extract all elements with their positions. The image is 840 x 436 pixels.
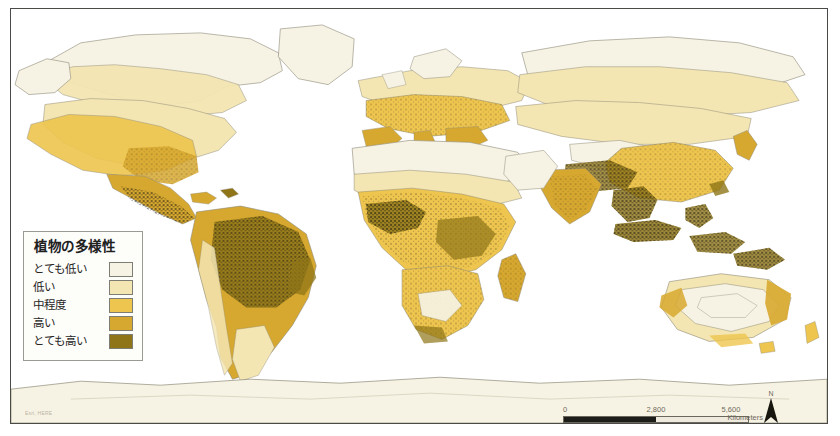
legend-swatch-low	[109, 280, 133, 295]
map-page: 植物の多様性 とても低い 低い 中程度 高い とても高い	[0, 0, 840, 436]
map-frame: 植物の多様性 とても低い 低い 中程度 高い とても高い	[10, 8, 828, 424]
legend-item-label: 低い	[33, 282, 55, 294]
legend-item-label: 中程度	[33, 300, 66, 312]
legend-swatch-medium	[109, 298, 133, 313]
legend-item-low[interactable]: 低い	[33, 279, 133, 296]
scale-segment-filled	[564, 417, 656, 422]
map-credit: Esri, HERE	[25, 410, 52, 416]
scale-bar: 0 2,800 5,600 Kilometers	[563, 405, 749, 423]
legend-item-label: とても高い	[33, 336, 87, 348]
legend-swatch-high	[109, 316, 133, 331]
legend-item-label: とても低い	[33, 264, 87, 276]
scale-bar-unit: Kilometers	[728, 413, 763, 422]
legend-item-high[interactable]: 高い	[33, 315, 133, 332]
scale-tick-mid: 2,800	[647, 405, 666, 414]
legend-item-very-low[interactable]: とても低い	[33, 261, 133, 278]
legend-item-label: 高い	[33, 318, 55, 330]
scale-tick-0: 0	[563, 405, 567, 414]
legend-swatch-very-high	[109, 334, 133, 349]
legend-swatch-very-low	[109, 262, 133, 277]
north-arrow-icon	[763, 398, 779, 424]
legend-panel[interactable]: 植物の多様性 とても低い 低い 中程度 高い とても高い	[23, 231, 143, 361]
north-arrow: N	[759, 390, 783, 424]
legend-item-medium[interactable]: 中程度	[33, 297, 133, 314]
scale-bar-ticks: 0 2,800 5,600	[563, 405, 749, 416]
world-map-canvas[interactable]	[11, 9, 827, 423]
legend-title: 植物の多様性	[34, 240, 133, 255]
scale-bar-segments	[563, 416, 749, 423]
legend-item-very-high[interactable]: とても高い	[33, 333, 133, 350]
north-arrow-label: N	[759, 390, 783, 397]
